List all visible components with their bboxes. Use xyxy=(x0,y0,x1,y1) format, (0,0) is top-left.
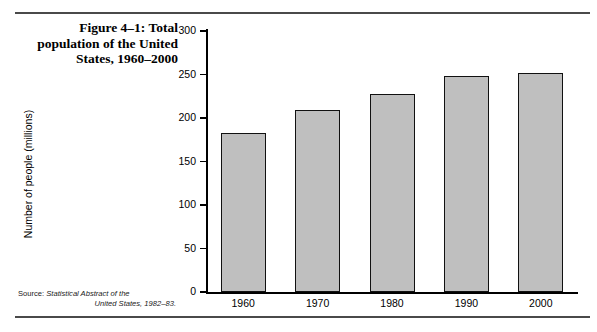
x-axis-label-1960: 1960 xyxy=(208,297,278,309)
y-axis-tick-label: 300 xyxy=(160,24,196,36)
y-axis-tick xyxy=(200,30,206,32)
y-axis-tick-label: 250 xyxy=(160,68,196,80)
figure-page: Figure 4–1: Total population of the Unit… xyxy=(0,0,597,332)
bar-1960 xyxy=(221,133,266,292)
y-axis-tick-label: 50 xyxy=(160,242,196,254)
y-axis-tick xyxy=(200,161,206,163)
y-axis-tick-label: 0 xyxy=(160,285,196,297)
y-axis-tick xyxy=(200,291,206,293)
bar-1990 xyxy=(444,76,489,292)
bar-chart: Number of people (millions) 050100150200… xyxy=(0,0,597,332)
y-axis-tick-label: 150 xyxy=(160,155,196,167)
y-axis-tick xyxy=(200,248,206,250)
x-axis-label-1980: 1980 xyxy=(357,297,427,309)
bar-1970 xyxy=(295,110,340,292)
x-axis-label-1990: 1990 xyxy=(431,297,501,309)
x-axis-line xyxy=(206,292,578,294)
x-axis-label-1970: 1970 xyxy=(283,297,353,309)
y-axis-tick-label: 200 xyxy=(160,111,196,123)
y-axis-title: Number of people (millions) xyxy=(22,74,34,274)
y-axis-tick xyxy=(200,204,206,206)
y-axis-tick-label: 100 xyxy=(160,198,196,210)
x-axis-label-2000: 2000 xyxy=(506,297,576,309)
y-axis-tick xyxy=(200,74,206,76)
y-axis-line xyxy=(206,29,208,294)
bar-1980 xyxy=(370,94,415,292)
y-axis-tick xyxy=(200,117,206,119)
bar-2000 xyxy=(518,73,563,292)
